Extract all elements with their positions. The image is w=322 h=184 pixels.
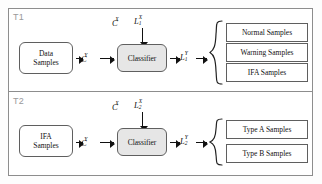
brace-t1 [209,20,223,85]
classifier-t1-label: Classifier [128,54,157,63]
top-label-lx-t2: LX2 [134,98,145,110]
classifier-box-t2[interactable]: Classifier [117,128,167,156]
edge-label-cy-t2: CY [81,135,90,148]
arrow-ly-to-brace-t2 [196,142,207,143]
output-box-warning-samples[interactable]: Warning Samples [226,43,308,62]
input-box-ifa-samples[interactable]: IFA Samples [19,125,73,157]
subsup-ly-t1: Y1 [185,50,191,60]
output-box-normal-samples[interactable]: Normal Samples [226,23,308,42]
output-ifa-label: IFA Samples [248,68,286,77]
output-warning-label: Warning Samples [241,48,294,57]
arrow-top-into-classifier-t2 [142,112,143,126]
top-label-lx-t1: LX1 [134,14,145,26]
arrow-cy-to-classifier-t2 [100,142,114,143]
output-type-b-label: Type B Samples [242,149,291,158]
arrow-classifier-to-ly-t1 [170,58,180,59]
classifier-t2-label: Classifier [128,138,157,147]
brace-t2 [209,118,223,166]
input-box-t2-text: IFA Samples [33,132,58,150]
section-tag-t1: T1 [13,12,24,22]
arrow-top-into-classifier-t1 [142,28,143,42]
output-box-type-b-samples[interactable]: Type B Samples [226,144,308,163]
section-divider [8,91,313,92]
arrow-cy-to-classifier-t1 [100,58,114,59]
top-label-cx-t2: CX [112,99,121,112]
subsup-lx-t1: X1 [139,14,145,24]
input-box-data-samples[interactable]: Data Samples [19,42,73,74]
subsup-lx-t2: X2 [139,98,145,108]
classifier-box-t1[interactable]: Classifier [117,44,167,72]
diagram-canvas: T1 Data Samples CY CX LX1 Classifier LY1… [0,0,322,184]
output-box-type-a-samples[interactable]: Type A Samples [226,120,308,139]
input-box-t1-text: Data Samples [33,49,58,67]
arrow-ly-to-brace-t1 [196,58,207,59]
arrow-classifier-to-ly-t2 [170,142,180,143]
output-type-a-label: Type A Samples [243,125,292,134]
edge-label-ly-t1: LY1 [180,50,191,62]
output-box-ifa-samples[interactable]: IFA Samples [226,63,308,82]
top-label-cx-t1: CX [112,15,121,28]
edge-label-ly-t2: LY2 [180,134,191,146]
edge-label-cy-t1: CY [81,51,90,64]
subsup-ly-t2: Y2 [185,134,191,144]
output-normal-label: Normal Samples [242,28,292,37]
section-tag-t2: T2 [13,96,24,106]
